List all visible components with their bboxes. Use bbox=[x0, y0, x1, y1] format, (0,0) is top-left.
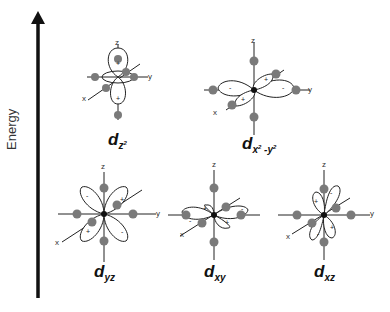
axis-z-label: z bbox=[251, 36, 255, 45]
sign-plus: + bbox=[264, 76, 268, 83]
axis-z-label: z bbox=[322, 160, 326, 169]
sign-plus: + bbox=[116, 95, 120, 102]
sign-plus: + bbox=[330, 224, 334, 231]
sign-plus: + bbox=[314, 198, 318, 205]
axis-x-label: x bbox=[213, 108, 217, 117]
sign-minus: - bbox=[86, 192, 88, 199]
label-dx2-y2: dx2 -y2 bbox=[242, 134, 276, 155]
sign-plus: + bbox=[225, 219, 229, 226]
sign-minus: - bbox=[282, 84, 284, 91]
axis-z-label: z bbox=[212, 160, 216, 169]
orbital-dz2 bbox=[87, 44, 148, 120]
sign-plus: + bbox=[116, 60, 120, 67]
energy-arrow bbox=[31, 11, 45, 298]
orbital-dxy bbox=[168, 170, 260, 260]
sign-minus: - bbox=[121, 228, 123, 235]
axis-y-label: y bbox=[370, 209, 374, 218]
energy-axis-label: Energy bbox=[4, 109, 19, 150]
sign-minus: - bbox=[317, 230, 319, 237]
sign-minus: - bbox=[330, 189, 332, 196]
sign-minus: - bbox=[241, 205, 243, 212]
axis-x-label: x bbox=[180, 230, 184, 239]
axis-y-label: y bbox=[308, 85, 312, 94]
axis-x-label: x bbox=[82, 94, 86, 103]
label-dxy: dxy bbox=[204, 262, 226, 283]
orbital-dx2-y2 bbox=[204, 42, 310, 135]
label-dxz: dxz bbox=[314, 262, 335, 283]
label-dz2: dz2 bbox=[108, 130, 127, 151]
axis-y-label: y bbox=[156, 209, 160, 218]
orbital-dxz bbox=[278, 170, 370, 260]
sign-plus: + bbox=[120, 196, 124, 203]
axis-z-label: z bbox=[101, 162, 105, 171]
label-dyz: dyz bbox=[94, 262, 115, 283]
orbital-dyz bbox=[58, 172, 156, 262]
axis-x-label: x bbox=[286, 232, 290, 241]
sign-minus: - bbox=[189, 217, 191, 224]
sign-plus: + bbox=[86, 228, 90, 235]
axis-x-label: x bbox=[55, 238, 59, 247]
sign-plus: + bbox=[203, 205, 207, 212]
sign-minus: - bbox=[229, 84, 231, 91]
axis-z-label: z bbox=[115, 38, 119, 47]
sign-plus: + bbox=[241, 96, 245, 103]
axis-y-label: y bbox=[148, 72, 152, 81]
